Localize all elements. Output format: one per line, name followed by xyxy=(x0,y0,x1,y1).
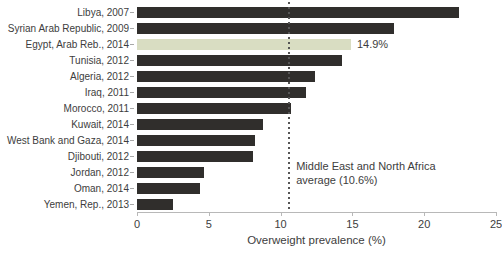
y-tick-mark xyxy=(130,108,134,109)
bar-row: Oman, 2014 xyxy=(0,180,496,196)
bar-track xyxy=(137,71,496,82)
bar-row: West Bank and Gaza, 2014 xyxy=(0,132,496,148)
bar xyxy=(137,183,200,194)
x-tick-mark xyxy=(209,212,210,216)
y-tick-mark xyxy=(130,92,134,93)
category-label: Tunisia, 2012 xyxy=(0,55,129,66)
category-label: Iraq, 2011 xyxy=(0,87,129,98)
x-axis-title: Overweight prevalence (%) xyxy=(137,234,496,246)
x-tick-label: 10 xyxy=(274,218,286,230)
bar-row: Kuwait, 2014 xyxy=(0,116,496,132)
bar-track xyxy=(137,7,496,18)
category-label: Yemen, Rep., 2013 xyxy=(0,199,129,210)
y-tick-mark xyxy=(130,44,134,45)
y-tick-mark xyxy=(130,124,134,125)
category-label: Kuwait, 2014 xyxy=(0,119,129,130)
bar xyxy=(137,7,459,18)
y-tick-mark xyxy=(130,204,134,205)
bar-track xyxy=(137,55,496,66)
x-tick-label: 5 xyxy=(206,218,212,230)
bar xyxy=(137,167,204,178)
bar xyxy=(137,199,173,210)
bar-rows: Libya, 2007Syrian Arab Republic, 2009Egy… xyxy=(0,4,496,212)
bar-row: Yemen, Rep., 2013 xyxy=(0,196,496,212)
category-label: Libya, 2007 xyxy=(0,7,129,18)
bar-row: Tunisia, 2012 xyxy=(0,52,496,68)
bar-track xyxy=(137,167,496,178)
bar xyxy=(137,55,342,66)
highlight-value-label: 14.9% xyxy=(357,38,388,50)
x-tick-label: 0 xyxy=(134,218,140,230)
x-tick-mark xyxy=(281,212,282,216)
y-tick-mark xyxy=(130,172,134,173)
bar-highlighted xyxy=(137,39,351,50)
x-tick-mark xyxy=(137,212,138,216)
category-label: Syrian Arab Republic, 2009 xyxy=(0,23,129,34)
category-label: Egypt, Arab Reb., 2014 xyxy=(0,39,129,50)
category-label: Morocco, 2011 xyxy=(0,103,129,114)
bar-track xyxy=(137,135,496,146)
y-tick-mark xyxy=(130,60,134,61)
y-tick-mark xyxy=(130,188,134,189)
bar xyxy=(137,151,253,162)
category-label: West Bank and Gaza, 2014 xyxy=(0,135,129,146)
x-tick-label: 20 xyxy=(418,218,430,230)
bar-row: Jordan, 2012 xyxy=(0,164,496,180)
bar xyxy=(137,71,315,82)
x-tick-mark xyxy=(496,212,497,216)
bar-track xyxy=(137,151,496,162)
bar xyxy=(137,103,291,114)
bar-row: Iraq, 2011 xyxy=(0,84,496,100)
category-label: Djibouti, 2012 xyxy=(0,151,129,162)
category-label: Jordan, 2012 xyxy=(0,167,129,178)
y-tick-mark xyxy=(130,12,134,13)
bar-row: Egypt, Arab Reb., 201414.9% xyxy=(0,36,496,52)
bar-track xyxy=(137,87,496,98)
bar xyxy=(137,23,394,34)
x-tick-mark xyxy=(352,212,353,216)
category-label: Algeria, 2012 xyxy=(0,71,129,82)
bar-row: Djibouti, 2012 xyxy=(0,148,496,164)
bar-track xyxy=(137,183,496,194)
overweight-prevalence-chart: Libya, 2007Syrian Arab Republic, 2009Egy… xyxy=(0,0,502,254)
bar xyxy=(137,119,263,130)
bar-row: Morocco, 2011 xyxy=(0,100,496,116)
y-tick-mark xyxy=(130,156,134,157)
bar-row: Libya, 2007 xyxy=(0,4,496,20)
bar-track xyxy=(137,103,496,114)
bar-track: 14.9% xyxy=(137,39,496,50)
bar xyxy=(137,135,255,146)
y-tick-mark xyxy=(130,76,134,77)
y-tick-mark xyxy=(130,140,134,141)
x-tick-label: 15 xyxy=(346,218,358,230)
bar-row: Algeria, 2012 xyxy=(0,68,496,84)
bar-track xyxy=(137,199,496,210)
x-tick-mark xyxy=(424,212,425,216)
y-tick-mark xyxy=(130,28,134,29)
bar-track xyxy=(137,23,496,34)
bar xyxy=(137,87,306,98)
bar-row: Syrian Arab Republic, 2009 xyxy=(0,20,496,36)
category-label: Oman, 2014 xyxy=(0,183,129,194)
bar-track xyxy=(137,119,496,130)
x-tick-label: 25 xyxy=(490,218,502,230)
